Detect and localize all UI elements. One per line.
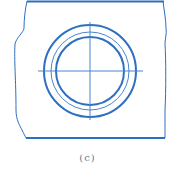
plate-right-break-edge: [163, 1, 166, 138]
plate-left-break-edge: [15, 1, 27, 138]
figure-caption: (c): [0, 152, 175, 163]
technical-drawing: [0, 0, 175, 172]
